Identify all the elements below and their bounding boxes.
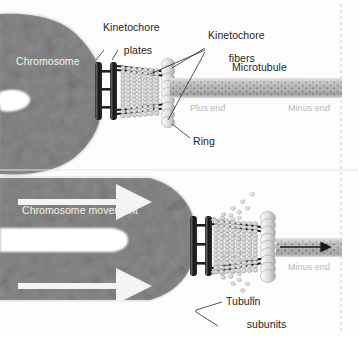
- tubulin-subunit: [242, 237, 247, 241]
- tubulin-subunit: [132, 86, 137, 90]
- microtubule-label: Microtubule: [232, 62, 287, 74]
- tubulin-subunit: [236, 225, 241, 229]
- tubulin-subunit: [236, 245, 241, 249]
- tubulin-subunit: [247, 257, 252, 261]
- tubulin-line2: subunits: [247, 318, 287, 330]
- tubulin-subunit: [247, 233, 252, 237]
- kinetochore-plates-bottom: [190, 216, 212, 276]
- ring-bottom: [261, 212, 276, 283]
- tubulin-subunit: [219, 249, 224, 253]
- tubulin-subunit: [253, 230, 258, 234]
- tubulin-subunit: [253, 261, 258, 265]
- leader-ring: [172, 124, 190, 138]
- leader-fibers-a: [172, 48, 205, 68]
- tubulin-subunit: [247, 241, 252, 245]
- tubulin-subunit-splayed: [245, 282, 250, 286]
- tubulin-subunit: [214, 245, 219, 249]
- tubulin-subunit: [121, 90, 126, 94]
- tubulin-subunit: [149, 97, 154, 101]
- tubulin-subunit: [253, 233, 258, 237]
- tubulin-subunit: [214, 233, 219, 237]
- tubulin-subunit: [219, 262, 224, 266]
- tubulin-subunit: [230, 229, 235, 233]
- tubulin-subunit: [149, 68, 154, 72]
- tubulin-subunit: [230, 265, 235, 269]
- tubulin-subunit: [126, 102, 131, 106]
- tubulin-subunit-splayed: [221, 275, 226, 280]
- leader-tubulin-a: [196, 302, 222, 310]
- tubulin-subunit: [214, 253, 219, 257]
- plus-end-label: Plus end: [190, 103, 225, 115]
- tubulin-subunit: [132, 105, 137, 109]
- tubulin-subunit: [247, 253, 252, 257]
- tubulin-subunit: [230, 249, 235, 253]
- tubulin-subunit: [225, 270, 230, 274]
- tubulin-subunit: [137, 98, 142, 102]
- tubulin-subunit-splayed: [220, 216, 225, 220]
- tubulin-subunit: [126, 110, 131, 114]
- tubulin-subunit: [121, 86, 126, 90]
- tubulin-subunit: [121, 110, 126, 114]
- tubulin-subunit: [126, 66, 131, 70]
- tubulin-subunit: [149, 79, 154, 83]
- tubulin-subunit: [225, 225, 230, 229]
- kinetochore-plates-top: [95, 62, 117, 120]
- tubulin-subunit-splayed: [240, 288, 245, 293]
- tubulin-subunit: [253, 237, 258, 241]
- tubulin-subunit: [149, 75, 154, 79]
- tubulin-subunit: [219, 241, 224, 245]
- tubulin-subunit: [121, 98, 126, 102]
- kinetochore-plates-line2: plates: [124, 44, 152, 56]
- tubulin-subunit: [230, 257, 235, 261]
- tubulin-subunit: [230, 241, 235, 245]
- tubulin-subunit: [230, 261, 235, 265]
- tubulin-subunit: [137, 109, 142, 113]
- tubulin-subunit: [121, 70, 126, 74]
- tubulin-subunit: [132, 67, 137, 71]
- tubulin-subunit: [126, 106, 131, 110]
- tubulin-subunit: [253, 245, 258, 249]
- tubulin-subunit: [143, 75, 148, 79]
- tubulin-subunit: [121, 74, 126, 78]
- tubulin-subunit: [230, 269, 235, 273]
- tubulin-subunit: [242, 261, 247, 265]
- tubulin-subunit: [137, 82, 142, 86]
- tubulin-subunit: [149, 101, 154, 105]
- tubulin-subunit: [225, 261, 230, 265]
- tubulin-subunit: [230, 237, 235, 241]
- tubulin-subunit: [143, 94, 148, 98]
- tubulin-subunit: [214, 258, 219, 262]
- tubulin-subunit: [225, 229, 230, 233]
- tubulin-subunit: [126, 90, 131, 94]
- tubulin-subunit-splayed: [221, 212, 226, 217]
- ring-subunit: [261, 270, 276, 283]
- tubulin-subunit: [219, 229, 224, 233]
- tubulin-subunit: [247, 249, 252, 253]
- tubulin-subunit: [137, 75, 142, 79]
- figure-canvas: Chromosome Kinetochore plates Kinetochor…: [0, 0, 358, 338]
- tubulin-subunit: [219, 266, 224, 270]
- tubulin-subunit: [230, 221, 235, 225]
- tubulin-subunit: [121, 78, 126, 82]
- tubulin-subunit: [126, 82, 131, 86]
- tubulin-subunit: [143, 105, 148, 109]
- tubulin-subunit: [225, 221, 230, 225]
- tubulin-subunit: [253, 249, 258, 253]
- microtubule-bottom: [276, 238, 342, 257]
- diagram-svg: [0, 0, 358, 338]
- tubulin-subunit: [214, 266, 219, 270]
- tubulin-subunit: [143, 68, 148, 72]
- tubulin-subunit: [253, 241, 258, 245]
- tubulin-subunit: [247, 225, 252, 229]
- tubulin-subunit: [253, 268, 258, 272]
- tubulin-subunit: [236, 241, 241, 245]
- tubulin-subunit: [225, 241, 230, 245]
- tubulin-subunit: [121, 82, 126, 86]
- tubulin-subunit: [137, 90, 142, 94]
- leader-tubulin-b: [196, 312, 218, 326]
- tubulin-subunit-splayed: [228, 214, 233, 218]
- tubulin-subunit: [149, 86, 154, 90]
- tubulin-subunit: [230, 233, 235, 237]
- tubulin-subunit: [230, 245, 235, 249]
- tubulin-subunit: [121, 106, 126, 110]
